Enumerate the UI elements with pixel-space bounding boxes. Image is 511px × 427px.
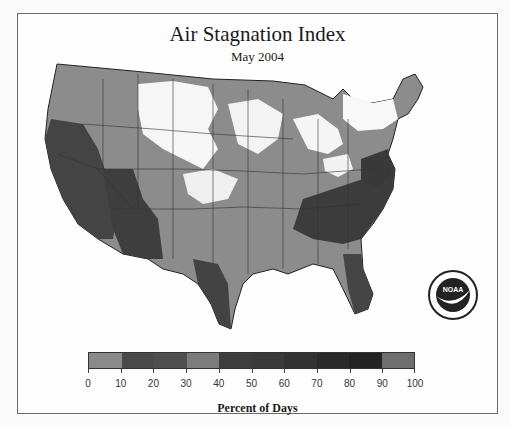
noaa-logo-icon: NOAA — [426, 268, 480, 322]
legend-bin-0-10 — [89, 353, 122, 368]
tick-label: 80 — [344, 378, 355, 389]
tick-label: 70 — [311, 378, 322, 389]
map-frame: Air Stagnation Index May 2004 — [17, 13, 498, 414]
legend-bin-60-70 — [284, 353, 317, 368]
tick-label: 100 — [407, 378, 424, 389]
legend-tick-labels: 0 10 20 30 40 50 60 70 80 90 100 — [88, 378, 415, 392]
legend-bin-30-40 — [187, 353, 220, 368]
tick-label: 20 — [148, 378, 159, 389]
legend-bin-50-60 — [252, 353, 285, 368]
legend-bin-10-20 — [122, 353, 155, 368]
legend-bin-80-90 — [349, 353, 382, 368]
tick-label: 40 — [213, 378, 224, 389]
legend-axis-label: Percent of Days — [18, 401, 497, 416]
region-florida-dark — [343, 254, 373, 314]
us-stagnation-map — [43, 59, 443, 349]
legend-color-bar — [88, 352, 415, 369]
tick-label: 50 — [246, 378, 257, 389]
legend-bin-40-50 — [219, 353, 252, 368]
legend-bin-70-80 — [317, 353, 350, 368]
legend-bin-90-100 — [382, 353, 415, 368]
noaa-logo-text: NOAA — [443, 286, 464, 293]
tick-label: 60 — [279, 378, 290, 389]
map-title: Air Stagnation Index — [18, 22, 497, 47]
legend-bin-20-30 — [154, 353, 187, 368]
tick-label: 90 — [377, 378, 388, 389]
legend-ticks — [88, 369, 415, 374]
tick-label: 30 — [181, 378, 192, 389]
tick-label: 0 — [85, 378, 91, 389]
tick-label: 10 — [115, 378, 126, 389]
